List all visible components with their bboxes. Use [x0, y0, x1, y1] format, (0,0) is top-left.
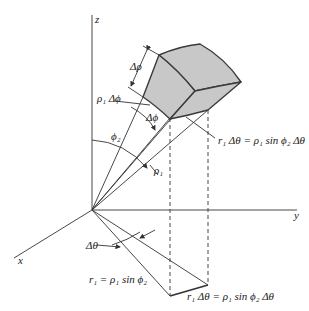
rho1-label: ρ₁: [154, 165, 163, 176]
y-axis-label: y: [294, 210, 299, 221]
ray-inner-left: [92, 97, 143, 210]
volume-element-box: [143, 44, 241, 119]
r1-dtheta-bottom-label: r₁ Δθ = ρ₁ sin ϕ₂ Δθ: [187, 291, 274, 302]
rho1-delta-phi-label: ρ₁ Δϕ: [97, 93, 121, 104]
x-axis: [14, 210, 92, 258]
x-axis-label: x: [18, 255, 23, 266]
r1-equation-label: r₁ = ρ₁ sin ϕ₂: [89, 274, 147, 285]
delta-phi-label: Δϕ: [146, 112, 158, 123]
ray-outer: [92, 110, 208, 210]
delta-theta-label: Δθ: [86, 240, 98, 251]
spherical-volume-element-diagram: [0, 0, 309, 311]
r1-dtheta-top-label: r₁ Δθ = ρ₁ sin ϕ₂ Δθ: [218, 135, 305, 146]
delta-rho-label: Δρ: [130, 61, 142, 72]
phi2-label: ϕ₂: [111, 131, 121, 142]
z-axis-label: z: [95, 14, 99, 25]
phi2-arc: [92, 140, 147, 168]
